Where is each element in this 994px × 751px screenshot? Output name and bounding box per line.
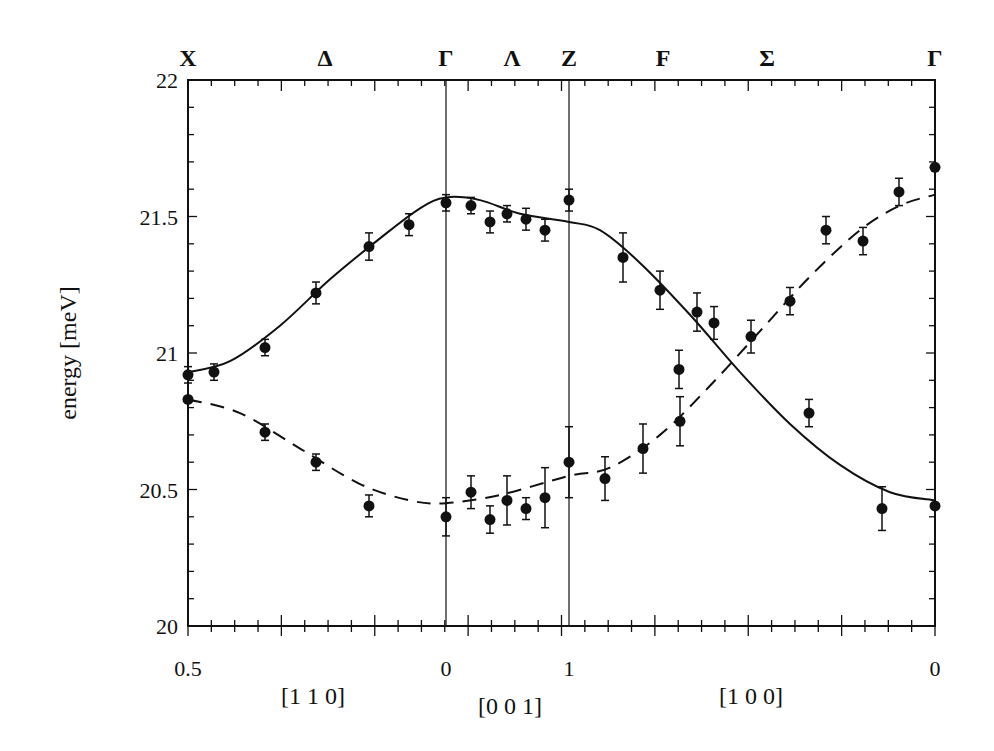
direction-label: [1 0 0]: [719, 683, 783, 709]
data-point: [858, 236, 869, 247]
symmetry-point-label: Σ: [759, 45, 775, 71]
symmetry-point-label: Γ: [927, 45, 942, 71]
lower-branch-curve: [188, 195, 935, 504]
data-point: [404, 219, 415, 230]
data-points: [183, 162, 941, 536]
data-point: [183, 369, 194, 380]
y-tick-label: 21.5: [140, 205, 179, 230]
data-point: [502, 495, 513, 506]
x-tick-label: 0: [930, 656, 941, 681]
symmetry-point-label: Λ: [503, 45, 521, 71]
symmetry-point-label: Z: [561, 45, 577, 71]
data-point: [709, 317, 720, 328]
data-point: [364, 500, 375, 511]
data-point: [930, 162, 941, 173]
data-point: [311, 287, 322, 298]
data-point: [521, 503, 532, 514]
plot-frame: [188, 80, 935, 626]
data-point: [894, 186, 905, 197]
axis-ticks: [188, 80, 935, 636]
data-point: [655, 285, 666, 296]
plot-border: [188, 80, 935, 626]
data-point: [521, 214, 532, 225]
data-point: [485, 514, 496, 525]
x-tick-label: 0.5: [174, 656, 202, 681]
y-tick-label: 21: [156, 341, 178, 366]
data-point: [540, 225, 551, 236]
direction-label: [1 1 0]: [281, 683, 345, 709]
symmetry-point-label: Γ: [438, 45, 453, 71]
data-point: [674, 364, 685, 375]
x-tick-label: 0: [441, 656, 452, 681]
y-axis-title: energy [meV]: [55, 286, 81, 420]
x-tick-label: 1: [564, 656, 575, 681]
data-point: [209, 367, 220, 378]
data-point: [441, 197, 452, 208]
symmetry-lines: [446, 80, 569, 626]
data-point: [675, 416, 686, 427]
fit-curves: [188, 195, 935, 504]
data-point: [466, 200, 477, 211]
data-point: [877, 503, 888, 514]
data-point: [746, 331, 757, 342]
data-point: [260, 427, 271, 438]
upper-branch-curve: [188, 197, 935, 501]
symmetry-point-label: Δ: [317, 45, 332, 71]
y-tick-label: 22: [156, 68, 178, 93]
data-point: [540, 492, 551, 503]
data-point: [692, 307, 703, 318]
symmetry-point-label: F: [656, 45, 671, 71]
data-point: [466, 487, 477, 498]
direction-label: [0 0 1]: [478, 693, 542, 719]
symmetry-point-label: X: [179, 45, 197, 71]
data-point: [785, 296, 796, 307]
data-point: [600, 473, 611, 484]
data-point: [564, 195, 575, 206]
data-point: [183, 394, 194, 405]
data-point: [364, 241, 375, 252]
dispersion-chart: 2020.52121.522XΔΓΛZFΣΓ0.5010[1 1 0][0 0 …: [0, 0, 994, 751]
data-point: [821, 225, 832, 236]
data-point: [564, 457, 575, 468]
data-point: [618, 252, 629, 263]
data-point: [441, 511, 452, 522]
y-tick-label: 20: [156, 614, 178, 639]
data-point: [485, 216, 496, 227]
data-point: [311, 457, 322, 468]
data-point: [502, 208, 513, 219]
data-point: [260, 342, 271, 353]
y-tick-label: 20.5: [140, 478, 179, 503]
data-point: [638, 443, 649, 454]
data-point: [804, 408, 815, 419]
data-point: [930, 500, 941, 511]
